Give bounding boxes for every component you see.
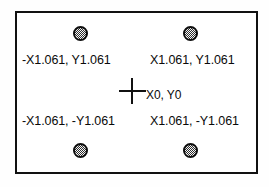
diagram-canvas: -X1.061, Y1.061 X1.061, Y1.061 -X1.061, … <box>0 0 269 187</box>
coordinate-label-top-right: X1.061, Y1.061 <box>150 53 235 67</box>
coordinate-label-origin: X0, Y0 <box>146 88 181 102</box>
datum-point-top-right <box>183 26 198 41</box>
datum-point-bottom-left <box>73 143 88 158</box>
datum-point-top-left <box>73 26 88 41</box>
origin-crosshair-icon <box>119 78 146 104</box>
datum-point-bottom-right <box>183 143 198 158</box>
coordinate-label-bottom-right: X1.061, -Y1.061 <box>150 114 239 128</box>
coordinate-label-top-left: -X1.061, Y1.061 <box>22 53 111 67</box>
coordinate-label-bottom-left: -X1.061, -Y1.061 <box>22 114 115 128</box>
crosshair-vertical-bar <box>131 78 133 104</box>
